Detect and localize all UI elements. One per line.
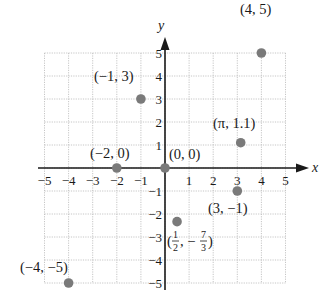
y-tick-label: 1	[156, 138, 163, 153]
y-axis-label: y	[156, 18, 165, 33]
point-label-neg1-3: (−1, 3)	[94, 68, 134, 85]
data-point	[172, 217, 182, 227]
point-label-origin: (0, 0)	[169, 146, 201, 163]
svg-text:3: 3	[201, 242, 206, 253]
x-tick-label: −1	[134, 173, 148, 188]
data-point	[64, 278, 74, 288]
data-point	[233, 186, 243, 196]
data-point	[136, 94, 146, 104]
point-label-3-neg1: (3, −1)	[208, 200, 248, 217]
point-labels: (4, 5) (−1, 3) (π, 1.1) (−2, 0) (0, 0) (…	[20, 1, 272, 276]
x-tick-label: −3	[86, 173, 100, 188]
point-label-half-neg7thirds: ( 1 2 , − 7 3 )	[167, 229, 213, 253]
y-tick-label: −2	[148, 207, 162, 222]
x-tick-label: 1	[186, 173, 193, 188]
svg-text:1: 1	[173, 229, 178, 240]
y-tick-label: 5	[156, 46, 163, 61]
y-tick-label: 3	[156, 92, 163, 107]
x-axis-label: x	[311, 160, 319, 175]
x-tick-label: 3	[234, 173, 241, 188]
svg-text:7: 7	[201, 229, 206, 240]
y-tick-label: −1	[148, 184, 162, 199]
y-tick-label: 2	[156, 115, 163, 130]
svg-text:(: (	[167, 233, 172, 250]
point-label-neg2-0: (−2, 0)	[90, 145, 130, 162]
x-tick-label: −5	[38, 173, 52, 188]
data-point	[160, 163, 170, 173]
data-point	[112, 163, 122, 173]
y-tick-label: −3	[148, 230, 162, 245]
x-tick-label: 5	[282, 173, 289, 188]
data-point	[236, 138, 246, 148]
x-tick-label: 4	[258, 173, 265, 188]
svg-text:, −: , −	[180, 233, 195, 249]
x-axis-arrow-icon	[296, 164, 309, 173]
point-label-4-5: (4, 5)	[240, 1, 272, 18]
coordinate-plane: x y −5−4−3−2−112345−5−4−3−2−112345 (4, 5…	[0, 0, 332, 298]
x-tick-label: 2	[210, 173, 217, 188]
point-label-neg4-neg5: (−4, −5)	[20, 259, 68, 276]
y-tick-label: −5	[148, 276, 162, 291]
point-label-pi-1-1: (π, 1.1)	[213, 115, 256, 132]
x-tick-label: −4	[62, 173, 76, 188]
svg-text:2: 2	[173, 242, 178, 253]
svg-text:): )	[208, 233, 213, 250]
data-point	[257, 48, 267, 58]
y-tick-label: 4	[156, 69, 163, 84]
y-tick-label: −4	[148, 253, 162, 268]
x-tick-label: −2	[110, 173, 124, 188]
